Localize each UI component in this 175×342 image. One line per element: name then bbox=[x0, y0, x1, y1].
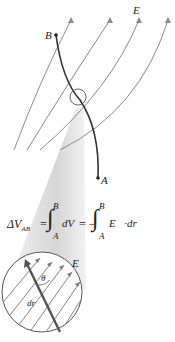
circle-field-label: E⃗ bbox=[72, 258, 87, 269]
diagram-canvas bbox=[0, 0, 175, 342]
field-arrowheads bbox=[68, 17, 171, 23]
theta-label: θ bbox=[41, 274, 45, 283]
integrand-dv: dV bbox=[62, 218, 74, 229]
point-a-label: A bbox=[101, 175, 108, 186]
point-b bbox=[54, 33, 58, 37]
point-b-label: B bbox=[45, 30, 52, 41]
int2-upper: B bbox=[99, 202, 105, 211]
dr-label: dr⃗ bbox=[27, 299, 42, 308]
field-lines bbox=[14, 20, 168, 150]
potential-equation: ΔVAB = ∫ B A dV = − ∫ B A E⃗·dr⃗ bbox=[7, 200, 137, 240]
delta-v: ΔVAB bbox=[7, 218, 30, 233]
int1-lower: A bbox=[53, 232, 59, 241]
zoom-circle-large bbox=[2, 252, 82, 332]
integral-2: ∫ bbox=[92, 206, 99, 230]
int1-upper: B bbox=[53, 202, 59, 211]
int2-lower: A bbox=[99, 232, 105, 241]
integrand-edr: E⃗·dr⃗ bbox=[109, 218, 145, 229]
equals: = bbox=[40, 218, 47, 230]
field-label: E⃗ bbox=[133, 5, 148, 16]
point-a bbox=[96, 176, 100, 180]
